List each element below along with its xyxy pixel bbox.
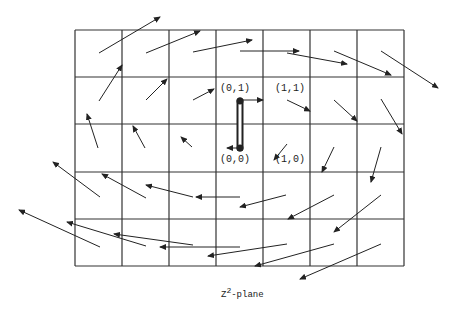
vector-arrow xyxy=(146,31,200,53)
endpoint-0-1 xyxy=(237,98,244,105)
vector-arrow xyxy=(99,17,160,53)
vector-arrow xyxy=(287,100,310,111)
vector-arrow xyxy=(193,40,252,52)
unit-path xyxy=(237,98,244,152)
vector-arrow xyxy=(53,162,100,197)
origin-point xyxy=(237,145,244,152)
vector-arrow xyxy=(287,53,347,64)
point-label: (1,0) xyxy=(275,154,305,165)
vector-arrow xyxy=(208,244,287,256)
vector-arrow xyxy=(102,174,146,198)
point-label: (0,1) xyxy=(220,83,250,94)
vector-arrow xyxy=(334,100,357,121)
vector-arrow xyxy=(381,51,438,88)
caption-rest: -plane xyxy=(231,290,263,300)
vector-arrow xyxy=(300,244,381,279)
vector-arrow xyxy=(87,114,98,148)
vector-arrow xyxy=(133,126,145,148)
point-label: (1,1) xyxy=(275,83,305,94)
plane-caption: Z2-plane xyxy=(221,286,264,300)
vector-arrow xyxy=(288,195,334,219)
vector-arrow xyxy=(193,89,214,100)
arrow-field xyxy=(19,17,438,279)
vector-arrow xyxy=(67,222,146,246)
vector-arrow xyxy=(181,137,192,147)
vector-arrow xyxy=(371,147,381,182)
vector-arrow xyxy=(99,65,122,101)
vector-arrow xyxy=(322,147,334,172)
vector-arrow xyxy=(381,99,402,134)
vector-arrow xyxy=(146,79,167,100)
point-label: (0,0) xyxy=(220,154,250,165)
